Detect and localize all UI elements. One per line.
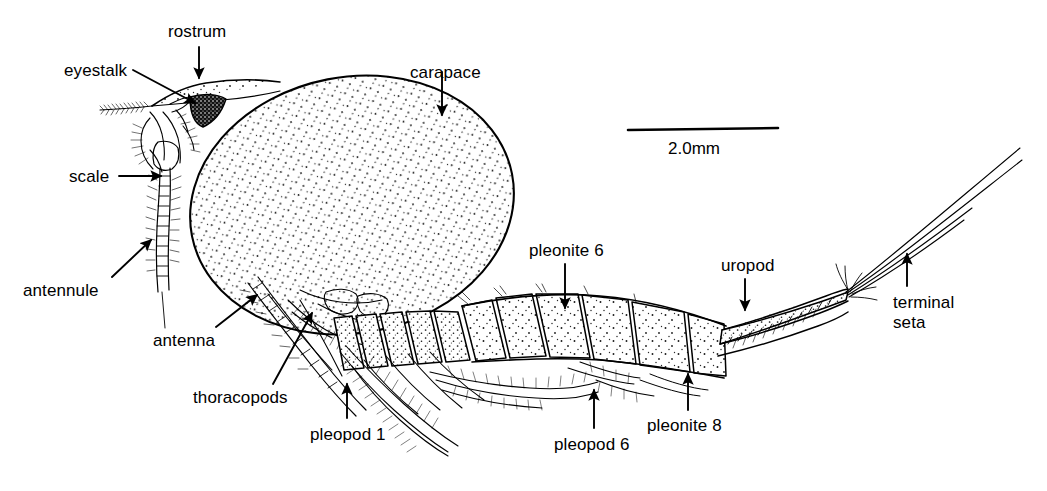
antennule-arrow xyxy=(112,240,151,277)
scale-bar-label: 2.0mm xyxy=(668,139,720,159)
label-pleonite-6: pleonite 6 xyxy=(529,241,604,260)
label-eyestalk: eyestalk xyxy=(64,61,127,80)
mysid-line-drawing xyxy=(0,0,1047,491)
label-pleopod-1: pleopod 1 xyxy=(310,425,386,444)
antennule-flagellum xyxy=(146,168,181,328)
head-appendage-bundle xyxy=(131,110,200,172)
label-scale: scale xyxy=(69,167,109,186)
label-antennule: antennule xyxy=(23,281,99,300)
anatomy-figure: rostrum eyestalk carapace scale antennul… xyxy=(0,0,1047,491)
label-rostrum: rostrum xyxy=(168,22,226,41)
label-antenna: antenna xyxy=(153,331,215,350)
antennal-scale-plume xyxy=(100,102,152,115)
uropod xyxy=(718,289,848,356)
label-pleopod-6: pleopod 6 xyxy=(554,435,630,454)
label-terminal-seta-line1: terminal xyxy=(893,293,954,312)
terminal-setae xyxy=(846,148,1022,297)
label-thoracopods: thoracopods xyxy=(193,388,288,407)
label-uropod: uropod xyxy=(721,256,775,275)
eye-dark-region xyxy=(190,95,226,127)
label-carapace: carapace xyxy=(410,63,481,82)
label-terminal-seta-line2: seta xyxy=(893,313,926,332)
label-pleonite-8: pleonite 8 xyxy=(647,416,722,435)
scale-bar-line xyxy=(628,128,778,130)
